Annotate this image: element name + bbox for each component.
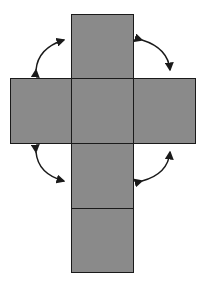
fold-arrows	[0, 0, 207, 286]
fold-arrow-bottom-left-icon	[36, 152, 64, 181]
fold-arrow-top-left-icon	[36, 40, 64, 70]
fold-arrow-bottom-right-icon	[142, 152, 170, 181]
fold-arrow-top-right-icon	[142, 40, 170, 70]
